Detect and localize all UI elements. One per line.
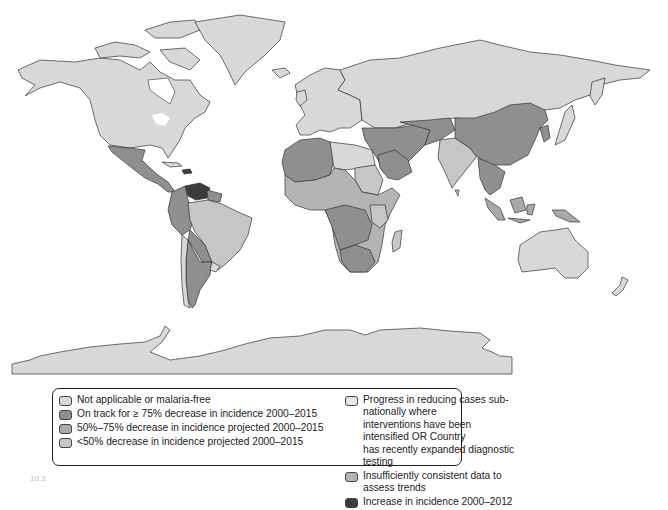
region-new-zealand [612, 277, 628, 296]
map-legend: Not applicable or malaria-free On track … [52, 388, 462, 466]
region-australia [518, 228, 588, 278]
region-kamchatka [590, 78, 605, 105]
legend-column-left: Not applicable or malaria-free On track … [59, 394, 329, 450]
legend-label: <50% decrease in incidence projected 200… [77, 436, 303, 448]
legend-swatch-increase [345, 498, 358, 508]
legend-swatch-not-applicable [59, 396, 72, 406]
region-indonesia [485, 197, 535, 223]
region-papua-new-guinea [552, 210, 580, 222]
legend-swatch-progress-subnational [345, 396, 358, 406]
legend-label: On track for ≥ 75% decrease in incidence… [77, 408, 317, 420]
region-venezuela [185, 183, 210, 200]
legend-swatch-insufficient-data [345, 472, 358, 482]
legend-label: Not applicable or malaria-free [77, 394, 211, 406]
legend-label: Increase in incidence 2000–2012 [363, 496, 513, 508]
region-greenland [195, 15, 285, 85]
region-cuba [162, 162, 182, 167]
region-north-america [18, 58, 210, 158]
region-antarctica [12, 326, 512, 374]
legend-item-on-track-75: On track for ≥ 75% decrease in incidence… [59, 408, 329, 420]
world-map [0, 0, 668, 380]
region-madagascar [392, 230, 402, 252]
legend-swatch-decrease-lt-50 [59, 438, 72, 448]
region-sri-lanka [455, 190, 459, 196]
legend-label: Insufficiently consistent data to assess… [363, 470, 515, 495]
region-hispaniola [182, 169, 192, 174]
legend-column-right: Progress in reducing cases sub-nationall… [345, 394, 515, 510]
region-iceland [272, 68, 290, 78]
legend-item-not-applicable: Not applicable or malaria-free [59, 394, 329, 406]
legend-label: 50%–75% decrease in incidence projected … [77, 422, 323, 434]
legend-item-decrease-50-75: 50%–75% decrease in incidence projected … [59, 422, 329, 434]
legend-item-decrease-lt-50: <50% decrease in incidence projected 200… [59, 436, 329, 448]
legend-item-insufficient-data: Insufficiently consistent data to assess… [345, 470, 515, 495]
legend-item-increase: Increase in incidence 2000–2012 [345, 496, 515, 508]
legend-item-progress-subnational: Progress in reducing cases sub-nationall… [345, 394, 515, 468]
figure-number: 10.3 [30, 474, 46, 483]
region-korea [540, 125, 550, 142]
legend-swatch-decrease-50-75 [59, 424, 72, 434]
legend-label: Progress in reducing cases sub-nationall… [363, 394, 515, 468]
region-north-africa [282, 138, 334, 182]
legend-swatch-on-track-75 [59, 410, 72, 420]
region-japan [555, 105, 575, 145]
